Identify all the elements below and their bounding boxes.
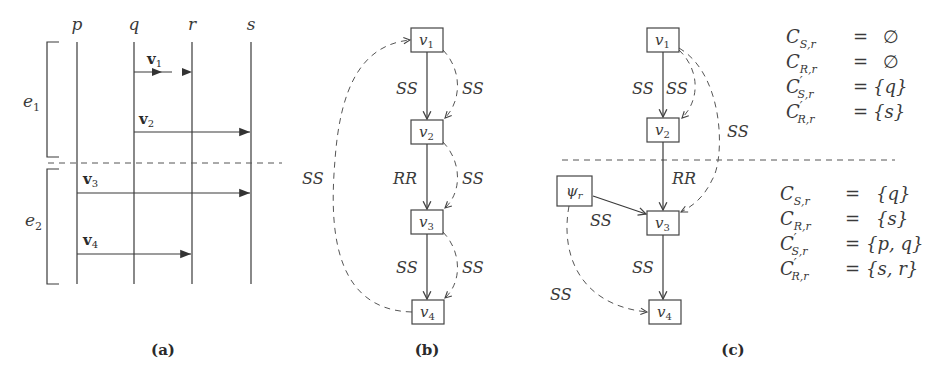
epoch-bracket-e1 <box>47 42 59 157</box>
edge-label-c-v1-v3-dashed: SS <box>727 122 749 141</box>
set-value-crp-after: {s, r} <box>866 258 918 279</box>
node-c-psi-r: ψr <box>557 176 592 206</box>
epoch-label-e2: e2 <box>25 210 42 233</box>
node-b-v1: v1 <box>411 28 443 52</box>
edge-label-c-psi-v4-dashed: SS <box>550 285 572 304</box>
panel-b: SS SS RR SS SS SS SS v1 v2 v3 v4 (b) <box>302 28 484 359</box>
svg-text:=: = <box>853 51 868 72</box>
svg-text:=: = <box>845 208 860 229</box>
message-label-v3: v3 <box>82 170 98 189</box>
diagram-canvas: p q r s e1 e2 v1 v2 v3 v4 (a) <box>0 0 932 376</box>
set-eq-cr-after: CR,r <box>780 208 812 233</box>
dashed-edge-v3-v4 <box>443 232 458 298</box>
edge-label-c-v1-v2-solid: SS <box>632 79 654 98</box>
svg-text:=: = <box>853 26 868 47</box>
edge-label-v3-v4-solid: SS <box>396 258 418 277</box>
node-b-v3: v3 <box>411 210 443 234</box>
node-b-v4: v4 <box>412 300 444 324</box>
set-eq-cr-before: CR,r <box>786 51 818 76</box>
set-eq-csp-after: C′S,r <box>780 232 808 258</box>
message-label-v1: v1 <box>146 50 162 69</box>
edge-label-v1-v2-dashed: SS <box>462 79 484 98</box>
message-label-v2: v2 <box>138 110 154 129</box>
edge-label-v2-v3-dashed: SS <box>462 169 484 188</box>
edge-label-v1-v2-solid: SS <box>396 79 418 98</box>
set-eq-crp-after: C′R,r <box>780 257 809 283</box>
node-c-v4: v4 <box>649 300 681 324</box>
edge-label-v2-v3-solid: RR <box>392 169 417 188</box>
arrowhead-icon <box>182 68 192 76</box>
sets-before: CS,r = ∅ CR,r = ∅ C′S,r = {q} C′R,r = {s… <box>786 26 907 126</box>
svg-text:=: = <box>853 101 868 122</box>
set-value-csp-after: {p, q} <box>866 233 923 254</box>
edge-label-c-psi-v3-solid: SS <box>590 211 612 230</box>
panel-a: p q r s e1 e2 v1 v2 v3 v4 (a) <box>23 14 282 359</box>
set-eq-csp-before: C′S,r <box>786 75 814 101</box>
set-value-crp-before: {s} <box>873 101 905 122</box>
node-c-v1: v1 <box>647 28 679 52</box>
message-label-v4: v4 <box>82 231 98 250</box>
set-eq-cs-before: CS,r <box>786 26 816 51</box>
edge-label-c-v1-v2-dashed: SS <box>666 79 688 98</box>
edge-label-c-v2-v3-solid: RR <box>671 169 696 188</box>
sets-after: CS,r = {q} CR,r = {s} C′S,r = {p, q} C′R… <box>780 183 923 283</box>
set-eq-crp-before: C′R,r <box>786 100 815 126</box>
epoch-bracket-e2 <box>47 169 59 284</box>
set-value-cs-before: ∅ <box>883 26 899 47</box>
caption-b: (b) <box>415 341 440 359</box>
panel-c: SS SS SS RR SS SS SS v1 v2 v3 v4 ψr CS <box>550 26 923 359</box>
process-label-s: s <box>247 14 256 34</box>
arrowhead-icon <box>152 68 162 76</box>
dashed-edge-v1-v2 <box>443 50 458 118</box>
svg-text:=: = <box>845 233 860 254</box>
svg-text:=: = <box>845 183 860 204</box>
svg-text:=: = <box>853 76 868 97</box>
edge-label-v4-v1-dashed: SS <box>302 169 324 188</box>
edge-label-v3-v4-dashed: SS <box>462 258 484 277</box>
node-c-v2: v2 <box>647 118 679 142</box>
process-label-q: q <box>129 14 140 34</box>
set-value-csp-before: {q} <box>873 76 907 97</box>
epoch-label-e1: e1 <box>23 91 40 114</box>
svg-text:=: = <box>845 258 860 279</box>
set-value-cs-after: {q} <box>876 183 910 204</box>
caption-a: (a) <box>151 341 175 359</box>
edge-label-c-v3-v4-solid: SS <box>632 258 654 277</box>
set-value-cr-before: ∅ <box>883 51 899 72</box>
set-eq-cs-after: CS,r <box>780 183 810 208</box>
set-value-cr-after: {s} <box>876 208 908 229</box>
node-b-v2: v2 <box>411 120 443 144</box>
caption-c: (c) <box>721 341 744 359</box>
process-label-p: p <box>72 14 83 34</box>
process-label-r: r <box>188 14 197 34</box>
dashed-edge-v2-v3 <box>443 142 458 208</box>
node-c-v3: v3 <box>647 211 679 235</box>
